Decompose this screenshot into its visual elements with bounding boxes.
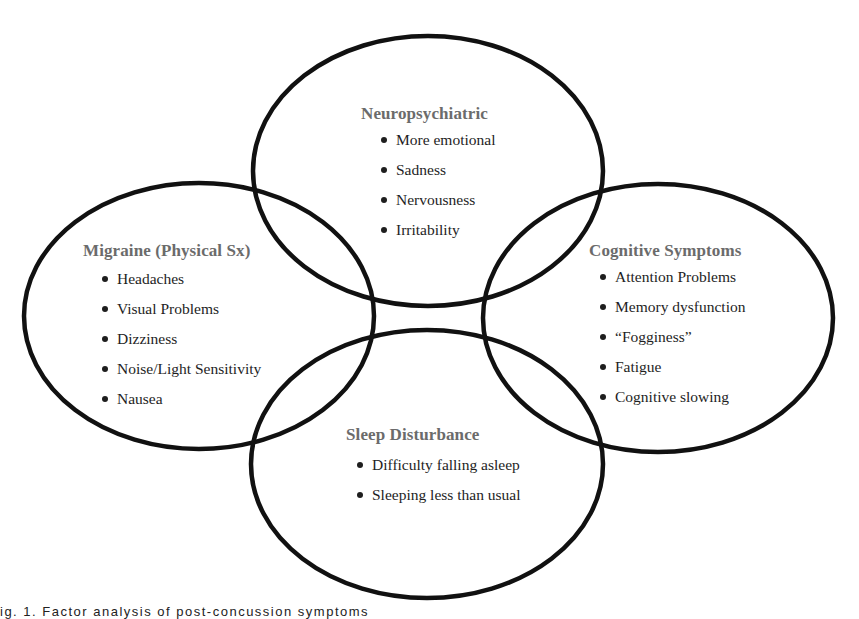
heading-cognitive: Cognitive Symptoms xyxy=(589,241,745,261)
list-item: Fatigue xyxy=(599,357,745,387)
bullet-icon xyxy=(357,492,363,498)
bullet-icon xyxy=(381,227,387,233)
list-item: Attention Problems xyxy=(599,267,745,297)
list-item: “Fogginess” xyxy=(599,327,745,357)
bullet-icon xyxy=(102,336,108,342)
list-migraine: Headaches Visual Problems Dizziness Nois… xyxy=(101,269,261,419)
bullet-icon xyxy=(102,396,108,402)
bullet-icon xyxy=(381,167,387,173)
group-neuropsychiatric: Neuropsychiatric More emotional Sadness … xyxy=(361,104,495,250)
bullet-icon xyxy=(600,304,606,310)
list-item: Memory dysfunction xyxy=(599,297,745,327)
bullet-icon xyxy=(102,276,108,282)
list-cognitive: Attention Problems Memory dysfunction “F… xyxy=(599,267,745,417)
bullet-icon xyxy=(600,394,606,400)
list-item: Irritability xyxy=(380,220,495,250)
bullet-icon xyxy=(381,197,387,203)
bullet-icon xyxy=(600,364,606,370)
group-cognitive: Cognitive Symptoms Attention Problems Me… xyxy=(589,241,745,417)
list-item: More emotional xyxy=(380,130,495,160)
list-neuropsychiatric: More emotional Sadness Nervousness Irrit… xyxy=(380,130,495,250)
list-item: Nervousness xyxy=(380,190,495,220)
bullet-icon xyxy=(102,366,108,372)
list-item: Headaches xyxy=(101,269,261,299)
group-sleep: Sleep Disturbance Difficulty falling asl… xyxy=(346,425,521,515)
bullet-icon xyxy=(600,274,606,280)
bullet-icon xyxy=(357,462,363,468)
list-item: Difficulty falling asleep xyxy=(356,455,521,485)
heading-neuropsychiatric: Neuropsychiatric xyxy=(361,104,495,124)
list-item: Cognitive slowing xyxy=(599,387,745,417)
list-item: Dizziness xyxy=(101,329,261,359)
list-item: Sleeping less than usual xyxy=(356,485,521,515)
list-item: Nausea xyxy=(101,389,261,419)
list-item: Visual Problems xyxy=(101,299,261,329)
list-sleep: Difficulty falling asleep Sleeping less … xyxy=(356,455,521,515)
bullet-icon xyxy=(600,334,606,340)
figure-caption: ig. 1. Factor analysis of post-concussio… xyxy=(0,604,369,619)
list-item: Sadness xyxy=(380,160,495,190)
bullet-icon xyxy=(381,137,387,143)
group-migraine: Migraine (Physical Sx) Headaches Visual … xyxy=(83,241,261,419)
heading-migraine: Migraine (Physical Sx) xyxy=(83,241,261,261)
list-item: Noise/Light Sensitivity xyxy=(101,359,261,389)
heading-sleep: Sleep Disturbance xyxy=(346,425,521,445)
bullet-icon xyxy=(102,306,108,312)
